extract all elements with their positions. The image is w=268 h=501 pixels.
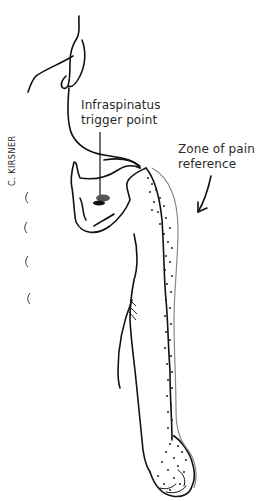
zone-label-line1: Zone of pain (178, 142, 255, 157)
trigger-point-label-line2: trigger point (81, 113, 161, 128)
scapula-border (80, 198, 86, 220)
arm-inner-outline (130, 234, 150, 472)
anatomy-illustration (0, 0, 268, 501)
zone-label: Zone of pain reference (178, 142, 255, 172)
arm-outer-outline (146, 168, 172, 440)
trigger-point (96, 195, 110, 202)
signature-marks (25, 192, 30, 304)
scapula-spine (104, 159, 140, 166)
zone-arrow (198, 176, 211, 212)
pain-zone-outline (152, 168, 196, 488)
zone-label-line2: reference (178, 157, 255, 172)
trigger-point-shadow (93, 201, 105, 206)
pain-zone-stipple (147, 177, 187, 491)
chin-outline (28, 56, 73, 92)
trigger-point-label-line1: Infraspinatus (81, 98, 161, 113)
trigger-point-label: Infraspinatus trigger point (81, 98, 161, 128)
artist-signature: C. KIRSNER (8, 135, 17, 186)
finger-lines (160, 470, 186, 493)
neck-outline (61, 16, 79, 88)
